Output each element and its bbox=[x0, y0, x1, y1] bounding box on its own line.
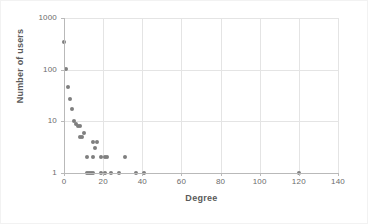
x-axis-tick bbox=[103, 173, 104, 176]
data-point bbox=[80, 135, 84, 139]
data-point bbox=[93, 146, 97, 150]
gridline-horizontal bbox=[64, 18, 338, 19]
data-point bbox=[91, 155, 95, 159]
gridline-vertical bbox=[299, 18, 300, 173]
x-axis-tick-label: 20 bbox=[88, 177, 118, 186]
gridline-vertical bbox=[221, 18, 222, 173]
gridline-horizontal bbox=[64, 121, 338, 122]
x-axis-tick bbox=[181, 173, 182, 176]
y-axis-tick bbox=[61, 70, 64, 71]
data-point bbox=[95, 140, 99, 144]
x-axis-tick-label: 120 bbox=[284, 177, 314, 186]
x-axis-tick-label: 40 bbox=[127, 177, 157, 186]
data-point bbox=[105, 155, 109, 159]
y-axis-tick-label: 100 bbox=[17, 65, 57, 74]
x-axis-tick-label: 80 bbox=[206, 177, 236, 186]
gridline-vertical bbox=[181, 18, 182, 173]
x-axis-tick-label: 60 bbox=[166, 177, 196, 186]
x-axis-tick bbox=[142, 173, 143, 176]
plot-area bbox=[64, 18, 338, 173]
x-axis-tick-label: 100 bbox=[245, 177, 275, 186]
y-axis-line bbox=[64, 18, 65, 174]
x-axis-tick bbox=[338, 173, 339, 176]
x-axis-tick bbox=[260, 173, 261, 176]
gridline-vertical bbox=[103, 18, 104, 173]
gridline-vertical bbox=[142, 18, 143, 173]
x-axis-line bbox=[64, 173, 339, 174]
x-axis-tick bbox=[221, 173, 222, 176]
data-point bbox=[82, 131, 86, 135]
chart-figure: Degree Number of users 11010010000204060… bbox=[0, 0, 368, 224]
x-axis-tick-label: 0 bbox=[49, 177, 79, 186]
data-point bbox=[70, 107, 74, 111]
gridline-vertical bbox=[338, 18, 339, 173]
y-axis-tick-label: 10 bbox=[17, 116, 57, 125]
gridline-vertical bbox=[260, 18, 261, 173]
data-point bbox=[85, 155, 89, 159]
x-axis-tick bbox=[299, 173, 300, 176]
y-axis-tick bbox=[61, 18, 64, 19]
y-axis-tick-label: 1 bbox=[17, 168, 57, 177]
x-axis-tick bbox=[64, 173, 65, 176]
y-axis-tick bbox=[61, 121, 64, 122]
x-axis-tick-label: 140 bbox=[323, 177, 353, 186]
data-point bbox=[123, 155, 127, 159]
data-point bbox=[68, 97, 72, 101]
x-axis-title: Degree bbox=[64, 193, 339, 203]
data-point bbox=[66, 85, 70, 89]
data-point bbox=[78, 124, 82, 128]
gridline-horizontal bbox=[64, 70, 338, 71]
y-axis-tick-label: 1000 bbox=[17, 13, 57, 22]
